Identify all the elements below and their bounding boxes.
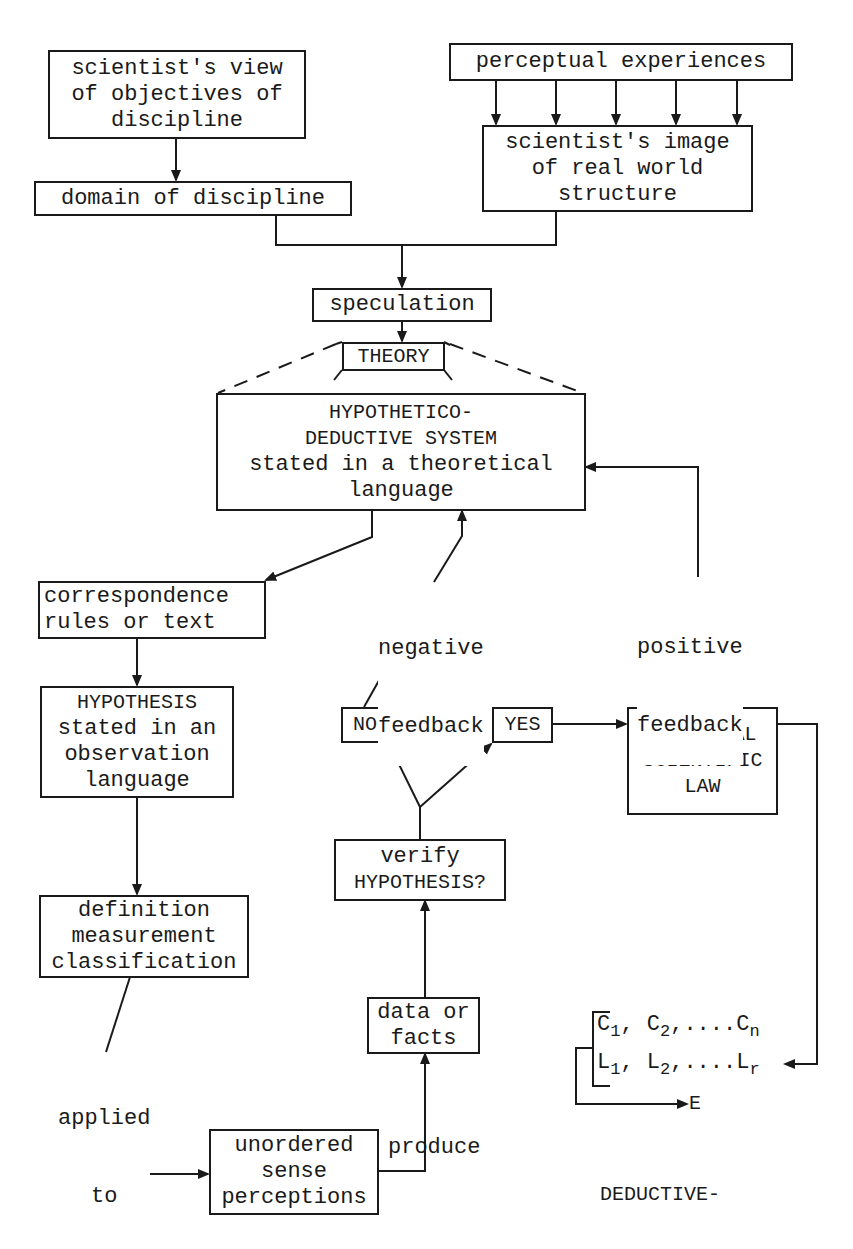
node-data-or-facts: data or facts <box>367 997 480 1054</box>
node-text: data or <box>377 1000 469 1026</box>
node-text: stated in a theoretical <box>249 452 553 478</box>
node-text: stated in an <box>58 716 216 742</box>
node-text: language <box>348 478 454 504</box>
node-view-objectives: scientist's view of objectives of discip… <box>48 50 306 139</box>
label-text: to <box>58 1184 150 1210</box>
node-definition-measurement: definition measurement classification <box>39 895 249 978</box>
subscript: 2 <box>660 1022 670 1041</box>
node-text: perceptual experiences <box>476 49 766 75</box>
label-text: feedback <box>378 714 484 740</box>
node-text: language <box>84 768 190 794</box>
node-text: correspondence <box>44 584 229 610</box>
node-text: LAW <box>684 774 720 800</box>
node-text: of real world <box>532 156 704 182</box>
caption-text: DEDUCTIVE- <box>600 1182 732 1207</box>
edge-empirical-to-formula <box>777 724 817 1064</box>
symbol: C <box>736 1012 749 1037</box>
node-text: observation <box>64 742 209 768</box>
node-text: structure <box>558 182 677 208</box>
node-text: definition <box>78 898 210 924</box>
formula-laws: L1, L2,....Lr <box>597 1046 760 1087</box>
node-hypothetico-deductive-system: HYPOTHETICO- DEDUCTIVE SYSTEM stated in … <box>216 393 586 511</box>
node-text: HYPOTHETICO- <box>329 400 473 426</box>
node-text: rules or text <box>44 610 216 636</box>
label-negative-feedback: negative feedback <box>378 584 484 766</box>
node-text: of objectives of <box>71 82 282 108</box>
node-correspondence-rules: correspondence rules or text <box>38 581 266 639</box>
node-theory: THEORY <box>342 342 445 371</box>
node-text: HYPOTHESIS <box>77 690 197 716</box>
separator: , <box>620 1012 646 1037</box>
node-text: facts <box>390 1026 456 1052</box>
symbol: C <box>647 1012 660 1037</box>
node-text: perceptions <box>221 1185 366 1211</box>
node-text: unordered <box>235 1133 354 1159</box>
subscript: 1 <box>610 1060 620 1079</box>
node-speculation: speculation <box>312 288 492 322</box>
symbol: L <box>736 1050 749 1075</box>
node-text: discipline <box>111 108 243 134</box>
subscript: 2 <box>660 1060 670 1079</box>
node-text: domain of discipline <box>61 186 325 212</box>
edge-negative-to-hds <box>434 511 462 582</box>
label-text: feedback <box>637 713 743 739</box>
label-text: positive <box>637 635 743 661</box>
node-verify-hypothesis: verify HYPOTHESIS? <box>334 839 506 901</box>
node-image-world: scientist's image of real world structur… <box>482 125 753 212</box>
formula-explanandum: E <box>689 1087 701 1121</box>
ellipsis: ,.... <box>670 1012 736 1037</box>
node-text: YES <box>504 712 540 738</box>
node-yes: YES <box>492 707 553 743</box>
label-text: applied <box>58 1106 150 1132</box>
node-text: speculation <box>329 292 474 318</box>
label-positive-feedback: positive feedback <box>637 583 743 765</box>
node-text: sense <box>261 1159 327 1185</box>
edge-hds-to-correspondence <box>266 510 372 580</box>
subscript: 1 <box>610 1022 620 1041</box>
label-produce: produce <box>388 1083 480 1187</box>
edge-domain-merge <box>276 211 556 245</box>
node-unordered-sense-perceptions: unordered sense perceptions <box>209 1129 379 1215</box>
symbol: L <box>597 1050 610 1075</box>
label-applied-to: applied to <box>58 1054 150 1236</box>
node-text: classification <box>52 950 237 976</box>
subscript: n <box>749 1022 759 1041</box>
symbol: L <box>647 1050 660 1075</box>
subscript: r <box>749 1060 759 1079</box>
symbol: C <box>597 1012 610 1037</box>
label-text: negative <box>378 636 484 662</box>
node-text: measurement <box>71 924 216 950</box>
node-hypothesis: HYPOTHESIS stated in an observation lang… <box>40 686 234 798</box>
node-text: THEORY <box>357 344 429 370</box>
edge-definition-to-applied <box>106 977 130 1052</box>
node-text: scientist's view <box>71 56 282 82</box>
node-text: HYPOTHESIS? <box>354 870 486 896</box>
node-text: DEDUCTIVE SYSTEM <box>305 426 497 452</box>
label-text: produce <box>388 1135 480 1161</box>
formula-conditions: C1, C2,....Cn <box>597 1008 760 1049</box>
symbol: E <box>689 1092 701 1115</box>
node-text: NO <box>353 712 377 738</box>
node-domain: domain of discipline <box>34 181 352 216</box>
node-text: scientist's image <box>505 130 729 156</box>
caption-deductive-nomological: DEDUCTIVE- NOMOLOGICAL EXPLANATION <box>600 1132 732 1249</box>
separator: , <box>620 1050 646 1075</box>
ellipsis: ,.... <box>670 1050 736 1075</box>
node-text: verify <box>380 844 459 870</box>
node-perceptual-experiences: perceptual experiences <box>449 43 793 81</box>
edge-positive-to-hds <box>586 467 698 577</box>
